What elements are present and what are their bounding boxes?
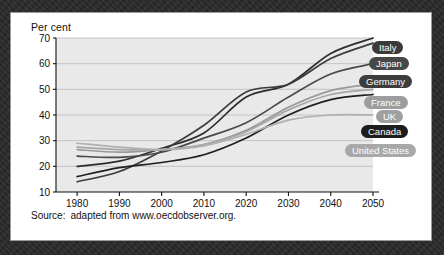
x-axis-tick-label: 1980 [66,198,89,209]
x-axis-tick-label: 2030 [277,198,300,209]
legend-badge-italy[interactable]: Italy [372,41,403,54]
legend-badge-france[interactable]: France [364,96,408,109]
x-axis-tick-label: 2020 [235,198,258,209]
y-axis-tick-label: 40 [39,110,51,121]
legend-badge-united-states[interactable]: United States [345,144,416,157]
y-axis-tick-label: 20 [39,161,51,172]
x-axis-tick-label: 2000 [151,198,174,209]
y-axis-tick-label: 50 [39,84,51,95]
legend-badge-canada[interactable]: Canada [361,125,408,138]
x-axis-tick-label: 2040 [320,198,343,209]
y-axis-tick-label: 70 [39,33,51,44]
y-axis-tick-label: 10 [39,187,51,198]
legend-badge-germany[interactable]: Germany [359,75,412,88]
chart-card: Per cent 1020304050607019801990200020102… [11,13,431,240]
source-label: Source: [31,210,65,221]
legend-badge-japan[interactable]: Japan [369,57,409,70]
legend-badge-uk[interactable]: UK [376,110,403,123]
x-axis-tick-label: 2010 [193,198,216,209]
source-text: adapted from www.oecdobserver.org. [70,210,236,221]
y-axis-tick-label: 60 [39,58,51,69]
y-axis-tick-label: 30 [39,135,51,146]
x-axis-tick-label: 1990 [108,198,131,209]
x-axis-tick-label: 2050 [362,198,385,209]
source-note: Source:adapted from www.oecdobserver.org… [31,210,236,221]
